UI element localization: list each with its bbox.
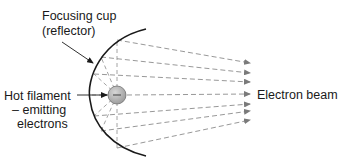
focusing-cup-leader-arrow: [62, 42, 93, 63]
reflector-label: (reflector): [42, 24, 95, 38]
electrons-label: electrons: [17, 117, 68, 131]
hot-filament-label: Hot filament: [4, 89, 71, 103]
emitting-label: – emitting: [12, 103, 66, 117]
electron-beam-label: Electron beam: [257, 88, 338, 102]
focusing-cup-label: Focusing cup: [42, 9, 116, 23]
